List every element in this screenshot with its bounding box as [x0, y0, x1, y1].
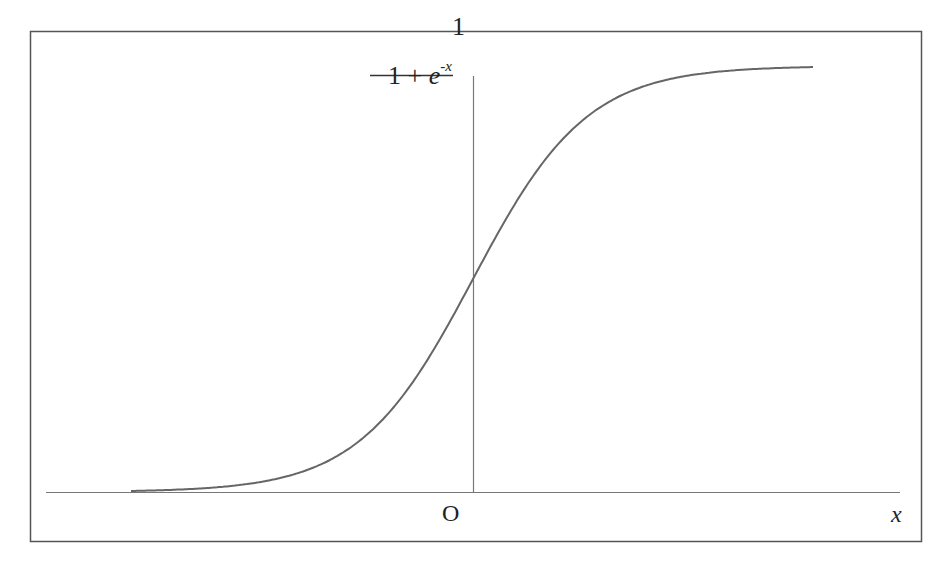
denominator-prefix: 1 +	[388, 61, 429, 90]
function-label-numerator: 1	[452, 12, 465, 42]
denominator-exponent: -x	[440, 58, 452, 74]
sigmoid-figure	[0, 0, 949, 569]
sigmoid-curve	[131, 67, 813, 491]
origin-label: O	[442, 500, 459, 527]
x-axis-label: x	[891, 501, 902, 528]
figure-frame	[31, 32, 922, 542]
function-label-denominator: 1 + e-x	[388, 61, 452, 91]
denominator-base: e	[429, 61, 441, 90]
